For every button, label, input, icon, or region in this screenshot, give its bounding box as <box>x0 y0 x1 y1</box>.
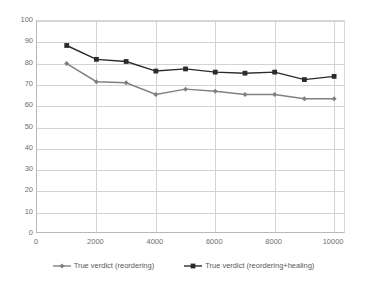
x-tick-label: 4000 <box>147 238 164 246</box>
y-tick-label: 70 <box>3 80 33 88</box>
data-point-marker <box>213 70 218 75</box>
x-tick-label: 2000 <box>87 238 104 246</box>
series-line <box>67 64 334 99</box>
x-axis: 0200040006000800010000 <box>36 238 345 250</box>
y-tick-label: 40 <box>3 144 33 152</box>
data-point-marker <box>153 92 158 97</box>
chart-legend: True verdict (reordering)True verdict (r… <box>0 262 367 270</box>
data-point-marker <box>302 77 307 82</box>
plot-area <box>36 20 345 233</box>
data-point-marker <box>332 96 337 101</box>
legend-swatch-icon <box>184 262 202 270</box>
x-tick-label: 10000 <box>323 238 344 246</box>
legend-item-0[interactable]: True verdict (reordering) <box>53 262 155 270</box>
data-point-marker <box>153 69 158 74</box>
data-point-marker <box>183 67 188 72</box>
data-point-marker <box>64 43 69 48</box>
legend-item-1[interactable]: True verdict (reordering+healing) <box>184 262 314 270</box>
data-point-marker <box>243 71 248 76</box>
legend-label: True verdict (reordering) <box>74 262 155 270</box>
y-tick-label: 10 <box>3 208 33 216</box>
data-point-marker <box>94 57 99 62</box>
x-tick-label: 0 <box>34 238 38 246</box>
series-1 <box>64 43 336 82</box>
y-tick-label: 50 <box>3 123 33 131</box>
y-tick-label: 90 <box>3 38 33 46</box>
y-tick-label: 80 <box>3 59 33 67</box>
data-point-marker <box>302 96 307 101</box>
series-0 <box>64 61 336 101</box>
legend-swatch-icon <box>53 262 71 270</box>
y-tick-label: 60 <box>3 101 33 109</box>
data-point-marker <box>183 87 188 92</box>
data-point-marker <box>242 92 247 97</box>
series-layer <box>37 21 346 234</box>
series-line <box>67 46 334 80</box>
data-point-marker <box>124 80 129 85</box>
data-point-marker <box>124 59 129 64</box>
data-point-marker <box>272 70 277 75</box>
y-axis: 0102030405060708090100 <box>0 20 33 233</box>
data-point-marker <box>332 74 337 79</box>
line-chart: 0102030405060708090100 02000400060008000… <box>0 0 367 286</box>
data-point-marker <box>272 92 277 97</box>
x-tick-label: 6000 <box>206 238 223 246</box>
data-point-marker <box>213 89 218 94</box>
y-tick-label: 30 <box>3 165 33 173</box>
legend-label: True verdict (reordering+healing) <box>205 262 314 270</box>
y-tick-label: 100 <box>3 16 33 24</box>
y-tick-label: 0 <box>3 229 33 237</box>
x-tick-label: 8000 <box>265 238 282 246</box>
y-tick-label: 20 <box>3 187 33 195</box>
